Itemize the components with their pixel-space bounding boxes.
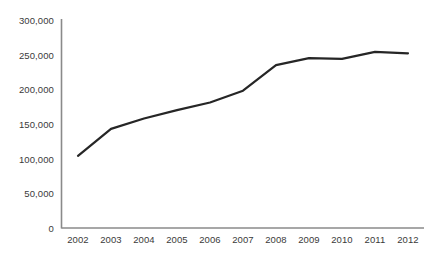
y-tick-label: 0 [2,223,54,234]
x-tick-label: 2012 [388,234,428,245]
y-tick-label: 300,000 [2,15,54,26]
y-tick-label: 250,000 [2,49,54,60]
line-chart: 050,000100,000150,000200,000250,000300,0… [0,0,431,266]
chart-plot-area [0,0,431,266]
y-tick-label: 50,000 [2,188,54,199]
chart-background [0,0,431,266]
y-tick-label: 200,000 [2,84,54,95]
y-tick-label: 100,000 [2,153,54,164]
y-tick-label: 150,000 [2,119,54,130]
